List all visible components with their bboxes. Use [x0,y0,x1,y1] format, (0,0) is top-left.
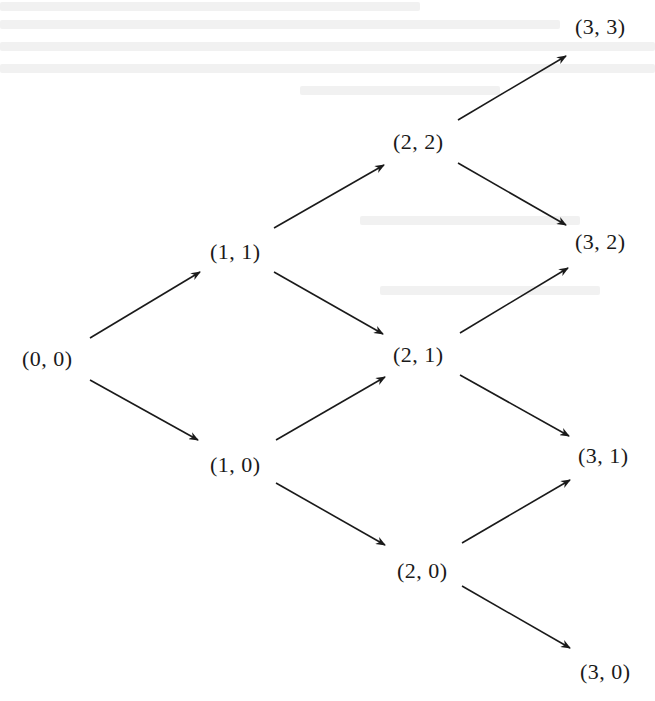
arrow-2-0-to-3-0 [462,586,570,648]
node-2-0: (2, 0) [397,560,448,582]
node-3-3: (3, 3) [575,16,626,38]
arrow-1-0-to-2-0 [276,483,385,545]
node-3-1: (3, 1) [578,445,629,467]
arrow-0-0-to-1-1 [90,272,200,338]
node-3-2: (3, 2) [575,231,626,253]
node-2-1: (2, 1) [393,344,444,366]
arrow-2-2-to-3-3 [458,56,566,120]
arrow-0-0-to-1-0 [90,380,198,440]
node-0-0: (0, 0) [22,348,73,370]
arrow-2-2-to-3-2 [458,163,566,225]
arrow-1-1-to-2-1 [274,272,383,334]
arrow-1-1-to-2-2 [274,165,384,228]
edges-layer [90,56,570,648]
node-1-0: (1, 0) [210,454,261,476]
node-3-0: (3, 0) [580,661,631,683]
arrow-2-1-to-3-2 [460,268,568,333]
arrow-1-0-to-2-1 [276,377,385,440]
arrow-2-1-to-3-1 [460,375,569,436]
node-2-2: (2, 2) [393,131,444,153]
arrow-2-0-to-3-1 [462,480,570,543]
lattice-diagram [0,0,655,701]
node-1-1: (1, 1) [210,241,261,263]
